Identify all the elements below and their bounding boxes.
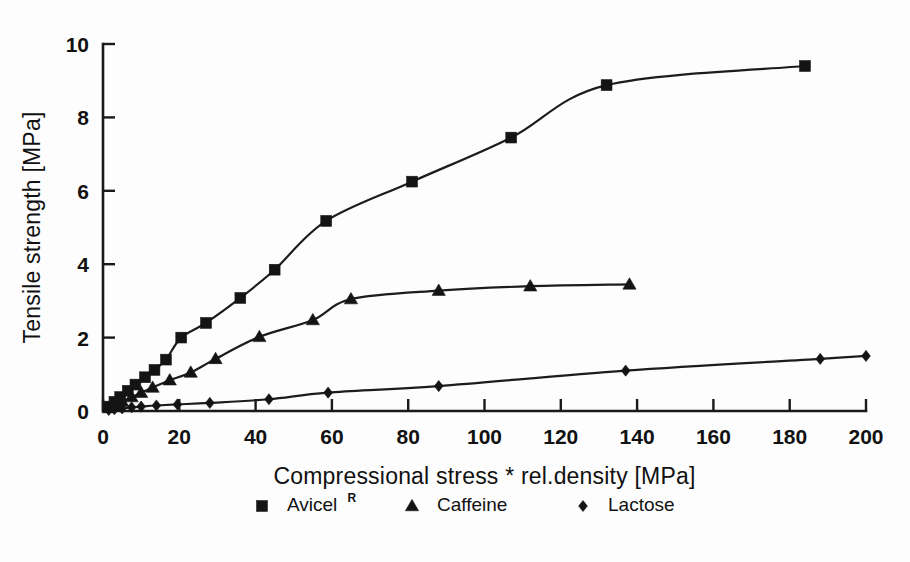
x-tick-label-40: 40: [244, 425, 267, 448]
legend-label-avicel: Avicel: [287, 494, 337, 515]
legend-label-caffeine: Caffeine: [437, 494, 507, 515]
marker-diamond-lactose-10: [434, 380, 443, 391]
y-tick-label-4: 4: [77, 253, 89, 276]
x-tick-label-20: 20: [168, 425, 191, 448]
marker-triangle-caffeine-10: [306, 313, 319, 324]
legend-superscript-avicel: R: [348, 491, 357, 505]
y-tick-label-0: 0: [77, 400, 89, 423]
marker-square-avicel-14: [506, 132, 517, 143]
x-tick-label-200: 200: [848, 425, 883, 448]
marker-diamond-lactose-11: [621, 365, 630, 376]
x-tick-label-80: 80: [397, 425, 420, 448]
marker-square-avicel-5: [140, 372, 151, 383]
y-tick-label-10: 10: [66, 33, 89, 56]
x-axis-title-text: Compressional stress * rel.density [MPa]: [273, 463, 695, 489]
marker-diamond-lactose-13: [862, 350, 871, 361]
marker-triangle-caffeine-8: [209, 352, 222, 363]
y-axis-ticks: [103, 44, 115, 411]
marker-square-avicel-10: [235, 293, 246, 304]
x-tick-label-60: 60: [320, 425, 343, 448]
x-tick-label-160: 160: [696, 425, 731, 448]
marker-diamond-lactose-5: [152, 400, 161, 411]
x-tick-label-120: 120: [543, 425, 578, 448]
figure-container: 0246810 020406080100120140160180200 Tens…: [0, 0, 910, 562]
marker-square-avicel-6: [149, 364, 160, 375]
x-axis-tick-labels: 020406080100120140160180200: [97, 425, 883, 448]
marker-diamond-lactose-9: [324, 387, 333, 398]
marker-square-avicel-12: [321, 215, 332, 226]
square-marker-icon: [257, 501, 268, 512]
curve-avicel: [109, 66, 805, 407]
marker-square-avicel-15: [601, 80, 612, 91]
legend-label-lactose: Lactose: [608, 494, 675, 515]
marker-triangle-caffeine-7: [184, 366, 197, 377]
y-axis-title: Tensile strength [MPa]: [19, 112, 45, 344]
y-tick-label-6: 6: [77, 180, 89, 203]
y-tick-label-2: 2: [77, 327, 89, 350]
x-tick-label-0: 0: [97, 425, 109, 448]
legend: AvicelRCaffeineLactose: [257, 491, 675, 515]
y-axis-title-text: Tensile strength [MPa]: [19, 112, 45, 344]
marker-square-avicel-8: [176, 332, 187, 343]
x-axis-ticks: [103, 399, 866, 411]
curve-lactose: [109, 356, 866, 410]
y-axis-tick-labels: 0246810: [66, 33, 90, 423]
marker-square-avicel-7: [161, 354, 172, 365]
marker-square-avicel-9: [201, 318, 212, 329]
marker-square-avicel-11: [269, 264, 280, 275]
marker-diamond-lactose-8: [265, 394, 274, 405]
triangle-marker-icon: [405, 499, 418, 510]
x-axis-title: Compressional stress * rel.density [MPa]: [273, 463, 695, 489]
marker-diamond-lactose-12: [816, 353, 825, 364]
series-curves: [109, 66, 866, 410]
x-tick-label-180: 180: [772, 425, 807, 448]
y-tick-label-8: 8: [77, 106, 89, 129]
marker-diamond-lactose-7: [205, 397, 214, 408]
diamond-marker-icon: [579, 500, 588, 511]
marker-square-avicel-16: [800, 61, 811, 72]
x-tick-label-100: 100: [467, 425, 502, 448]
x-tick-label-140: 140: [620, 425, 655, 448]
chart-canvas: 0246810 020406080100120140160180200 Tens…: [0, 0, 910, 562]
marker-square-avicel-13: [407, 176, 418, 187]
marker-square-avicel-4: [130, 379, 141, 390]
